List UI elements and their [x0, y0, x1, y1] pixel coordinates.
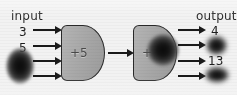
- output-arrow-1: [178, 41, 206, 50]
- output-arrow-2: [178, 57, 206, 66]
- processing-unit-2: +: [133, 25, 177, 81]
- output-value-0: 4: [211, 25, 219, 37]
- interconnect-arrow: [108, 49, 134, 58]
- output-arrow-0: [178, 26, 206, 35]
- output-arrow-3: [178, 72, 206, 81]
- processing-unit-2-operator: +: [142, 47, 152, 59]
- input-arrow-3: [33, 72, 62, 81]
- input-arrow-1: [33, 42, 62, 51]
- input-arrow-2: [33, 57, 62, 66]
- output-redaction-blob-1: [206, 36, 227, 55]
- input-arrow-0: [33, 26, 62, 35]
- output-redaction-blob-3: [205, 67, 229, 83]
- processing-unit-1: +5: [61, 25, 105, 81]
- output-value-2: 13: [208, 55, 223, 67]
- processing-unit-1-operator: +5: [70, 47, 88, 59]
- diagram-canvas: input output 3 5 +5 + 4: [0, 0, 237, 95]
- output-label: output: [196, 10, 237, 22]
- input-label: input: [11, 10, 43, 22]
- input-value-1: 5: [19, 42, 27, 54]
- input-value-0: 3: [19, 26, 27, 38]
